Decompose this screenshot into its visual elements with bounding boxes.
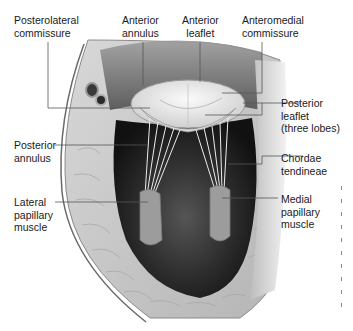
label-anterior-annulus: Anterior annulus — [122, 14, 159, 39]
label-anterior-leaflet: Anterior leaflet — [182, 14, 219, 39]
label-chordae-tendineae: Chordae tendineae — [281, 152, 327, 177]
label-lateral-papillary-muscle: Lateral papillary muscle — [14, 196, 53, 234]
edge-artifact — [341, 186, 343, 326]
label-anteromedial-commissure: Anteromedial commissure — [242, 14, 304, 39]
label-posterolateral-commissure: Posterolateral commissure — [14, 14, 79, 39]
label-posterior-annulus: Posterior annulus — [14, 139, 56, 164]
label-medial-papillary-muscle: Medial papillary muscle — [281, 193, 320, 231]
mitral-valve-diagram: Posterolateral commissure Anterior annul… — [0, 0, 353, 331]
label-posterior-leaflet: Posterior leaflet (three lobes) — [281, 97, 340, 135]
